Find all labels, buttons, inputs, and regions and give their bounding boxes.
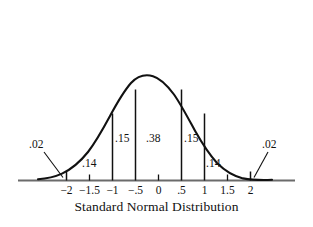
chart-title: Standard Normal Distribution xyxy=(0,200,313,214)
normal-distribution-figure: .02 .14 .15 .38 .15 .14 .02 −2 −1.5 −1 −… xyxy=(0,0,313,227)
x-tick-label-05: .5 xyxy=(172,185,191,197)
area-label-right-tail: .02 xyxy=(262,139,276,151)
callout-line-left-tail xyxy=(44,152,63,178)
x-tick-label-neg1: −1 xyxy=(100,185,125,197)
area-label-right-mid: .14 xyxy=(206,158,220,170)
bell-curve-path xyxy=(38,75,272,180)
area-label-left-inner: .15 xyxy=(115,133,129,145)
area-label-right-inner: .15 xyxy=(184,133,198,145)
area-label-left-mid: .14 xyxy=(82,158,96,170)
x-tick-label-2: 2 xyxy=(241,185,260,197)
x-tick-label-zero: 0 xyxy=(149,185,168,197)
area-label-left-tail: .02 xyxy=(29,139,43,151)
x-tick-label-1: 1 xyxy=(195,185,214,197)
area-label-center: .38 xyxy=(146,133,160,145)
callout-line-right-tail xyxy=(254,152,268,178)
x-tick-label-neg05: −.5 xyxy=(123,185,148,197)
x-tick-label-15: 1.5 xyxy=(215,185,240,197)
